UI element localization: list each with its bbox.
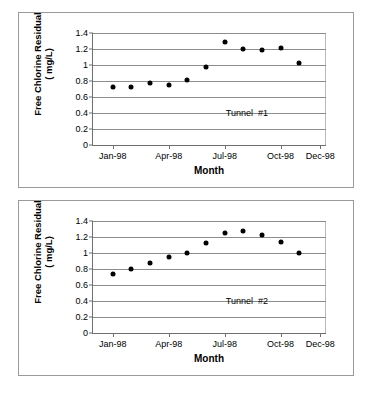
data-point bbox=[259, 232, 264, 237]
plot-area: 00.20.40.60.811.21.4Jan-98Apr-98Jul-98Oc… bbox=[92, 221, 326, 334]
y-tick-label: 0 bbox=[83, 328, 88, 338]
gridline bbox=[93, 113, 326, 114]
gridline bbox=[93, 269, 326, 270]
y-tick-mark bbox=[89, 301, 93, 302]
y-tick-label: 1 bbox=[83, 248, 88, 258]
x-tick-label: Jan-98 bbox=[99, 339, 127, 349]
y-tick-mark bbox=[89, 49, 93, 50]
y-tick-label: 0.4 bbox=[75, 108, 88, 118]
gridline bbox=[93, 237, 326, 238]
y-tick-label: 0.8 bbox=[75, 76, 88, 86]
data-point bbox=[259, 47, 264, 52]
y-axis-title-line1: Free Chlorine Residual bbox=[32, 200, 43, 303]
y-tick-label: 0.2 bbox=[75, 312, 88, 322]
x-tick-label: Dec-98 bbox=[306, 151, 335, 161]
data-point bbox=[278, 46, 283, 51]
data-point bbox=[241, 47, 246, 52]
y-tick-label: 1.4 bbox=[75, 216, 88, 226]
y-tick-label: 1 bbox=[83, 60, 88, 70]
y-axis-title: Free Chlorine Residual( mg/L) bbox=[32, 182, 54, 322]
y-tick-mark bbox=[89, 253, 93, 254]
x-tick-mark bbox=[320, 333, 321, 337]
x-tick-mark bbox=[281, 145, 282, 149]
x-tick-mark bbox=[113, 145, 114, 149]
x-tick-mark bbox=[113, 333, 114, 337]
figure-page: Free Chlorine Residual( mg/L) 00.20.40.6… bbox=[0, 0, 372, 409]
gridline bbox=[93, 317, 326, 318]
data-point bbox=[204, 240, 209, 245]
gridline bbox=[93, 65, 326, 66]
y-tick-mark bbox=[89, 113, 93, 114]
data-point bbox=[129, 267, 134, 272]
y-tick-label: 0.4 bbox=[75, 296, 88, 306]
tunnel-1-chart: Free Chlorine Residual( mg/L) 00.20.40.6… bbox=[19, 13, 353, 187]
plot-area: 00.20.40.60.811.21.4Jan-98Apr-98Jul-98Oc… bbox=[92, 33, 326, 146]
y-axis-title-line2: ( mg/L) bbox=[43, 48, 54, 80]
plot-inner: 00.20.40.60.811.21.4Jan-98Apr-98Jul-98Oc… bbox=[93, 221, 326, 333]
data-point bbox=[297, 61, 302, 66]
y-tick-mark bbox=[89, 81, 93, 82]
plot-annotation: Tunnel #1 bbox=[226, 108, 268, 118]
data-point bbox=[297, 251, 302, 256]
tunnel-2-chart: Free Chlorine Residual( mg/L) 00.20.40.6… bbox=[19, 201, 353, 375]
y-tick-mark bbox=[89, 285, 93, 286]
y-tick-mark bbox=[89, 129, 93, 130]
data-point bbox=[222, 231, 227, 236]
y-tick-mark bbox=[89, 269, 93, 270]
gridline bbox=[93, 221, 326, 222]
x-tick-mark bbox=[169, 145, 170, 149]
y-tick-mark bbox=[89, 145, 93, 146]
data-point bbox=[278, 239, 283, 244]
y-tick-mark bbox=[89, 317, 93, 318]
data-point bbox=[241, 228, 246, 233]
data-point bbox=[185, 251, 190, 256]
x-tick-label: Oct-98 bbox=[267, 339, 294, 349]
x-tick-label: Jul-98 bbox=[212, 339, 237, 349]
y-tick-label: 0.8 bbox=[75, 264, 88, 274]
data-point bbox=[185, 78, 190, 83]
y-tick-label: 1.4 bbox=[75, 28, 88, 38]
tunnel-1-chart-panel: Free Chlorine Residual( mg/L) 00.20.40.6… bbox=[18, 12, 354, 188]
tunnel-2-chart-panel: Free Chlorine Residual( mg/L) 00.20.40.6… bbox=[18, 200, 354, 376]
x-tick-label: Oct-98 bbox=[267, 151, 294, 161]
data-point bbox=[204, 64, 209, 69]
x-axis-title: Month bbox=[92, 165, 326, 176]
x-tick-mark bbox=[320, 145, 321, 149]
y-tick-label: 0.2 bbox=[75, 124, 88, 134]
gridline bbox=[93, 81, 326, 82]
data-point bbox=[110, 271, 115, 276]
y-tick-label: 0.6 bbox=[75, 92, 88, 102]
y-tick-label: 0 bbox=[83, 140, 88, 150]
y-tick-mark bbox=[89, 333, 93, 334]
y-axis-title-line2: ( mg/L) bbox=[43, 236, 54, 268]
x-tick-label: Apr-98 bbox=[155, 339, 182, 349]
y-tick-label: 1.2 bbox=[75, 232, 88, 242]
y-axis-title-line1: Free Chlorine Residual bbox=[32, 12, 43, 115]
y-tick-mark bbox=[89, 33, 93, 34]
gridline bbox=[93, 301, 326, 302]
gridline bbox=[93, 285, 326, 286]
gridline bbox=[93, 97, 326, 98]
gridline bbox=[93, 49, 326, 50]
y-tick-label: 0.6 bbox=[75, 280, 88, 290]
x-tick-label: Dec-98 bbox=[306, 339, 335, 349]
gridline bbox=[93, 33, 326, 34]
data-point bbox=[110, 84, 115, 89]
x-tick-mark bbox=[169, 333, 170, 337]
data-point bbox=[166, 255, 171, 260]
gridline bbox=[93, 253, 326, 254]
data-point bbox=[166, 83, 171, 88]
x-tick-label: Jan-98 bbox=[99, 151, 127, 161]
plot-annotation: Tunnel #2 bbox=[226, 296, 268, 306]
data-point bbox=[148, 261, 153, 266]
y-axis-title: Free Chlorine Residual( mg/L) bbox=[32, 0, 54, 134]
x-tick-mark bbox=[281, 333, 282, 337]
y-tick-mark bbox=[89, 65, 93, 66]
plot-inner: 00.20.40.60.811.21.4Jan-98Apr-98Jul-98Oc… bbox=[93, 33, 326, 145]
y-tick-mark bbox=[89, 97, 93, 98]
data-point bbox=[222, 39, 227, 44]
y-tick-label: 1.2 bbox=[75, 44, 88, 54]
x-tick-label: Jul-98 bbox=[212, 151, 237, 161]
x-tick-label: Apr-98 bbox=[155, 151, 182, 161]
x-tick-mark bbox=[225, 333, 226, 337]
